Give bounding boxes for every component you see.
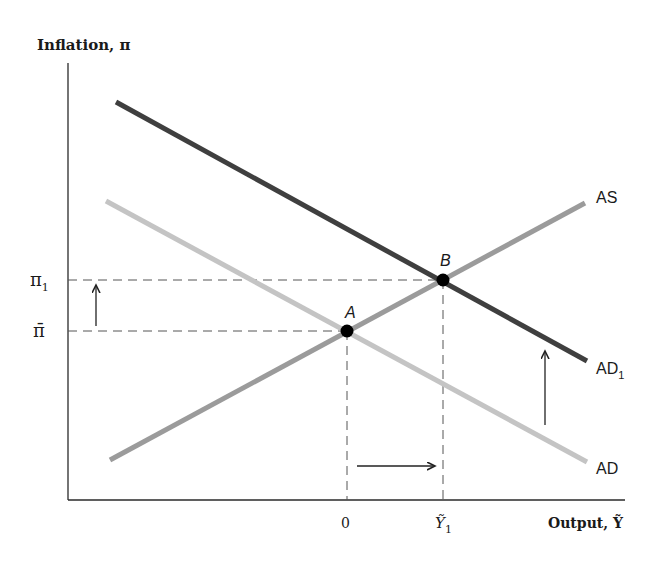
y1-tick-label: Ỹ1 <box>435 514 452 536</box>
ad1-label: AD1 <box>596 360 624 381</box>
y-axis-label: Inflation, π <box>37 36 131 54</box>
zero-tick-label: 0 <box>341 515 350 531</box>
as-ad-diagram: Inflation, π Output, Ỹ AS AD1 AD π1 π̄ 0… <box>0 0 659 561</box>
pibar-tick-label: π̄ <box>33 320 45 341</box>
ad1-curve <box>116 102 587 361</box>
as-label: AS <box>596 189 617 206</box>
point-b-label: B <box>440 252 451 269</box>
svg-text:Ỹ1: Ỹ1 <box>435 514 452 536</box>
point-a-marker <box>341 325 354 338</box>
x-axis-label: Output, Ỹ <box>548 513 624 531</box>
svg-text:π1: π1 <box>30 269 49 294</box>
pi1-tick-label: π1 <box>30 269 49 294</box>
point-b-marker <box>437 274 450 287</box>
ad-label: AD <box>596 460 618 477</box>
point-a-label: A <box>344 304 356 321</box>
svg-text:AD1: AD1 <box>596 360 624 381</box>
